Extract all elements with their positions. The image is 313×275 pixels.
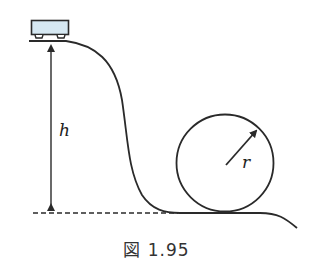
figure-caption: 図 1.95 <box>0 236 313 261</box>
loop-circle <box>177 115 274 212</box>
height-label: h <box>59 120 70 140</box>
roller-coaster-diagram: h r <box>0 0 313 275</box>
radius-arrow <box>226 131 256 165</box>
cart <box>32 21 69 39</box>
radius-label: r <box>242 152 251 172</box>
